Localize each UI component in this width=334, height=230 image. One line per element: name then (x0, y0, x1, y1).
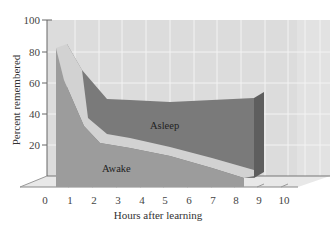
awake-label: Awake (102, 163, 131, 174)
x-tick-3: 3 (115, 194, 121, 206)
chart-canvas: 100 80 60 40 20 Percent remembered 0 1 2… (0, 0, 334, 230)
right-wall (297, 20, 330, 176)
asleep-side (254, 92, 264, 178)
asleep-label: Asleep (150, 120, 179, 131)
y-axis-title: Percent remembered (10, 54, 22, 145)
x-tick-2: 2 (91, 194, 97, 206)
x-tick-6: 6 (186, 194, 192, 206)
x-tick-5: 5 (162, 194, 168, 206)
y-tick-60: 60 (29, 77, 41, 89)
x-tick-1: 1 (67, 194, 73, 206)
y-tick-100: 100 (24, 14, 41, 26)
x-tick-0: 0 (42, 194, 48, 206)
y-tick-80: 80 (29, 46, 41, 58)
y-tick-20: 20 (29, 139, 41, 151)
x-tick-8: 8 (233, 194, 239, 206)
x-tick-10: 10 (279, 194, 291, 206)
x-tick-9: 9 (256, 194, 262, 206)
x-tick-7: 7 (210, 194, 216, 206)
x-axis-title: Hours after learning (114, 209, 203, 221)
y-tick-40: 40 (29, 108, 41, 120)
x-tick-4: 4 (139, 194, 145, 206)
